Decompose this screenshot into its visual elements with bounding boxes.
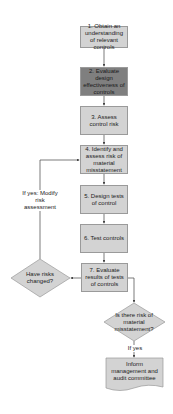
step-2-label: 2. Evaluate design effectiveness of cont… [83, 68, 125, 96]
step-4-box: 4. Identify and assess risk of material … [80, 145, 128, 174]
step-6-box: 6. Test controls [80, 224, 128, 253]
edge-label-modify: If yes: Modify risk assessment [20, 190, 60, 211]
step-1-box: 1. Obtain an understanding of relevant c… [80, 26, 128, 48]
step-5-box: 5. Design tests of control [80, 185, 128, 214]
step-5-label: 5. Design tests of control [83, 193, 125, 207]
decision-material-misstatement-label: Is there risk of material misstatement? [111, 311, 157, 333]
step-7-box: 7. Evaluate results of tests of controls [81, 263, 128, 292]
step-7-label: 7. Evaluate results of tests of controls [84, 267, 125, 288]
step-3-box: 3. Assess control risk [80, 106, 128, 135]
step-2-box: 2. Evaluate design effectiveness of cont… [80, 67, 128, 96]
edge-label-if-yes: If yes [124, 345, 146, 352]
step-3-label: 3. Assess control risk [83, 114, 125, 128]
step-6-label: 6. Test controls [84, 235, 124, 242]
step-1-label: 1. Obtain an understanding of relevant c… [83, 23, 125, 51]
output-document-label: Inform management and audit committee [108, 360, 161, 382]
decision-risks-changed-label: Have risks changed? [18, 270, 62, 286]
step-4-label: 4. Identify and assess risk of material … [83, 146, 125, 174]
